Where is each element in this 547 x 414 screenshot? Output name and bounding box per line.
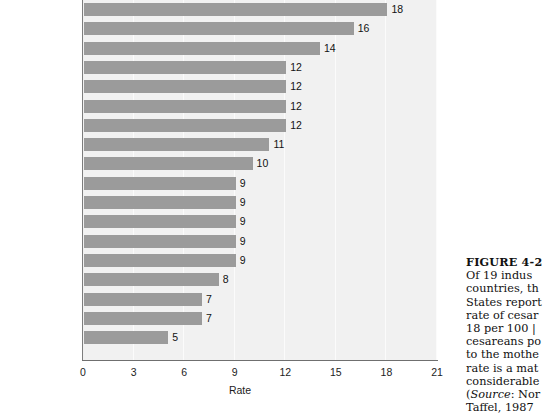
bar [84,215,236,228]
bar-row: United States18 [0,3,440,22]
bar-row: Hungary9 [0,254,440,273]
x-tick-label: 12 [279,366,291,378]
bar-value-label: 16 [358,22,370,35]
x-tick-label: 18 [381,366,393,378]
bar [84,119,286,132]
figure-caption: FIGURE 4-2 Of 19 indus countries, th Sta… [466,256,547,414]
bar-value-label: 12 [290,119,302,132]
bar [84,293,202,306]
caption-source-line2: Taffel, 1987 [466,401,547,414]
bar-row: France11 [0,138,440,157]
bar-row: England and Wales9 [0,215,440,234]
bar-value-label: 12 [290,100,302,113]
caption-line: Of 19 indus [466,269,547,282]
bar-value-label: 11 [273,138,284,151]
source-rest: : Nor [511,388,540,401]
bar-row: Czechoslovakia5 [0,331,440,350]
bar-row: Scotland12 [0,80,440,99]
caption-line: considerable [466,375,547,388]
bar-row: Austria7 [0,312,440,331]
x-tick-label: 3 [131,366,137,378]
bar-row: Portugal9 [0,196,440,215]
bar-row: Sweden12 [0,61,440,80]
bar [84,3,387,16]
x-axis-title: Rate [229,384,251,396]
bar [84,80,286,93]
bar [84,22,354,35]
x-axis-line [82,360,438,361]
bar-value-label: 14 [324,42,336,55]
bar-chart: United States18Canada16Australia14Sweden… [0,0,440,403]
bar-value-label: 5 [172,331,178,344]
bar-row: Australia14 [0,42,440,61]
bar [84,196,236,209]
caption-source-line: (Source: Nor [466,388,547,401]
bar-value-label: 9 [240,196,246,209]
caption-line: rate of cesar [466,309,547,322]
bar-row: Canada16 [0,22,440,41]
bar [84,331,168,344]
bar-row: New Zealand10 [0,157,440,176]
x-tick-label: 21 [431,366,443,378]
bar [84,138,269,151]
caption-line: States report [466,296,547,309]
x-tick-label: 0 [80,366,86,378]
source-label: Source [470,388,510,401]
bar-value-label: 9 [240,254,246,267]
bar [84,177,236,190]
bar [84,235,236,248]
bar-value-label: 7 [206,293,212,306]
bar-value-label: 8 [223,273,229,286]
bar [84,273,219,286]
bar-value-label: 12 [290,61,302,74]
caption-line: 18 per 100 | [466,322,547,335]
bar [84,42,320,55]
bar-row: Norway9 [0,235,440,254]
figure-heading: FIGURE 4-2 [466,256,547,269]
bar [84,157,253,170]
bar-row: Netherlands9 [0,177,440,196]
caption-line: rate is a mat [466,362,547,375]
bar-value-label: 9 [240,235,246,248]
bar-row: Denmark12 [0,100,440,119]
caption-line: cesareans po [466,335,547,348]
bar-value-label: 7 [206,312,212,325]
x-tick-label: 9 [232,366,238,378]
bar-value-label: 9 [240,177,246,190]
bar-value-label: 10 [257,157,269,170]
bar [84,312,202,325]
bar-value-label: 12 [290,80,302,93]
bar-row: Bavaria12 [0,119,440,138]
bar [84,61,286,74]
bar [84,100,286,113]
bar-row: Japan8 [0,273,440,292]
bar-value-label: 9 [240,215,246,228]
caption-line: countries, th [466,282,547,295]
x-tick-label: 15 [330,366,342,378]
x-tick-label: 6 [181,366,187,378]
bar-row: Belgium7 [0,293,440,312]
bar [84,254,236,267]
caption-line: to the mothe [466,348,547,361]
bar-value-label: 18 [391,3,403,16]
